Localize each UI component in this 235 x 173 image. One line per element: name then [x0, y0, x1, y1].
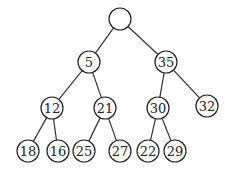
- edge-n12-n16: [54, 119, 57, 140]
- edge-n30-n29: [162, 118, 171, 141]
- edge-root-n35: [128, 27, 158, 55]
- node-label: 35: [158, 55, 175, 70]
- tree-node-5: 5: [78, 51, 100, 73]
- edge-n35-n32: [173, 70, 199, 98]
- node-label: 25: [76, 144, 93, 159]
- node-label: 32: [199, 99, 216, 114]
- node-label: 12: [44, 101, 61, 116]
- edge-n5-n21: [93, 72, 102, 97]
- edge-n21-n25: [89, 118, 100, 141]
- tree-node-21: 21: [94, 97, 116, 119]
- node-circle: [109, 8, 131, 30]
- node-label: 27: [112, 144, 129, 159]
- node-label: 29: [167, 144, 184, 159]
- edge-n21-n27: [109, 118, 117, 140]
- tree-node-32: 32: [196, 95, 218, 117]
- tree-node-22: 22: [137, 140, 159, 162]
- tree-node-30: 30: [147, 97, 169, 119]
- edge-n35-n30: [160, 73, 164, 97]
- node-label: 21: [97, 101, 114, 116]
- node-label: 22: [140, 144, 157, 159]
- tree-node-18: 18: [17, 140, 39, 162]
- tree-edges: [33, 27, 199, 142]
- tree-node-27: 27: [109, 140, 131, 162]
- tree-node-12: 12: [41, 97, 63, 119]
- edge-n5-n12: [59, 71, 82, 100]
- edge-n12-n18: [33, 118, 46, 142]
- tree-node-empty-root: [109, 8, 131, 30]
- tree-node-25: 25: [73, 140, 95, 162]
- edge-root-n5: [95, 28, 113, 53]
- tree-node-16: 16: [47, 140, 69, 162]
- binary-tree-diagram: 53512213032181625272229: [0, 0, 235, 173]
- edge-n30-n22: [150, 119, 155, 141]
- tree-node-35: 35: [155, 51, 177, 73]
- node-label: 16: [50, 144, 67, 159]
- tree-node-29: 29: [164, 140, 186, 162]
- node-label: 18: [20, 144, 37, 159]
- node-label: 5: [85, 55, 93, 70]
- node-label: 30: [150, 101, 167, 116]
